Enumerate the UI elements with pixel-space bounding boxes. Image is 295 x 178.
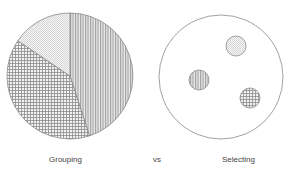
selecting-label: Selecting <box>222 155 255 164</box>
grouping-label: Grouping <box>49 155 82 164</box>
sample-grid <box>240 88 260 108</box>
sample-dots <box>226 36 246 56</box>
vs-label: vs <box>153 155 161 164</box>
population-circle <box>159 15 283 139</box>
sample-vertical-stripes <box>189 70 209 90</box>
grouping-pie <box>7 13 133 139</box>
selecting-diagram <box>159 15 283 139</box>
